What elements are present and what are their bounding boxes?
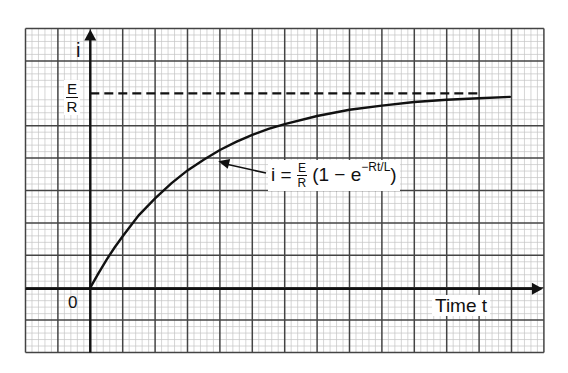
y-axis-label: i	[76, 40, 80, 60]
formula-exponent: −Rt/L	[361, 160, 390, 174]
x-axis-label: Time t	[432, 295, 490, 316]
asymptote-denominator: R	[67, 98, 78, 114]
formula-rhs: (1 − e	[312, 164, 361, 185]
origin-label: 0	[68, 294, 77, 311]
asymptote-label: E R	[64, 80, 80, 115]
formula-annotation: i = E R (1 − e−Rt/L)	[268, 160, 400, 191]
formula-numerator: E	[297, 162, 307, 176]
formula-denominator: R	[298, 176, 307, 189]
asymptote-numerator: E	[66, 81, 78, 98]
formula-close: )	[390, 164, 396, 185]
formula-lhs: i =	[271, 164, 292, 185]
